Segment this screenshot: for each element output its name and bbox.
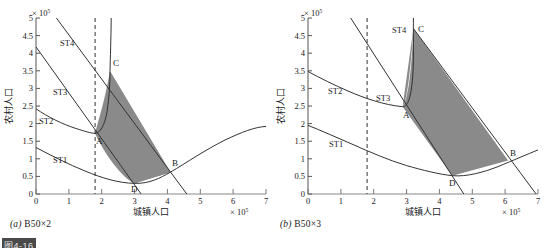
plot-area-b: × 105 0 0.5 1 1.5 2 <box>272 0 544 216</box>
label-st3-b: ST3 <box>376 93 390 103</box>
y-tick-label: 4 <box>29 48 34 58</box>
shaded-region-a-fill <box>95 71 170 183</box>
y-axis-ticks-a <box>36 18 40 194</box>
y-axis-exponent-sup-a: 5 <box>47 8 50 14</box>
y-axis-exponent-b: × 105 <box>304 8 322 18</box>
label-st1-a: ST1 <box>53 155 67 165</box>
shaded-region-b <box>403 29 509 176</box>
x-axis-ticks-b <box>308 189 538 194</box>
label-st4-a: ST4 <box>60 38 75 48</box>
y-tick-label: 0.5 <box>22 171 33 181</box>
y-tick-label: 1 <box>29 154 33 164</box>
chart-panel-a: × 105 0 0.5 1 1.5 <box>0 0 272 246</box>
point-label-c-a: C <box>113 58 119 68</box>
panel-caption-b: (b) B50×3 <box>280 219 321 229</box>
y-axis-tick-labels-b: 0 0.5 1 1.5 2 2.5 3 3.5 4 4.5 5 <box>294 13 305 199</box>
y-axis-tick-labels-a: 0 0.5 1 1.5 2 2.5 3 3.5 4 4.5 5 <box>22 13 33 199</box>
y-tick-label: 3 <box>29 83 33 93</box>
x-tick-label: 3 <box>132 196 136 206</box>
x-tick-label: 0 <box>306 196 310 206</box>
point-label-a-b: A <box>403 110 410 120</box>
y-axis-exponent-sup-b: 5 <box>319 8 322 14</box>
x-tick-label: 1 <box>67 196 71 206</box>
label-st2-b: ST2 <box>328 86 342 96</box>
plot-area-a: × 105 0 0.5 1 1.5 <box>0 0 272 216</box>
panel-caption-index-b: (b) <box>280 219 292 229</box>
panel-caption-index-a: (a) <box>10 219 22 229</box>
y-tick-label: 0 <box>29 189 33 199</box>
x-tick-label: 0 <box>34 196 38 206</box>
y-axis-exponent-a: × 105 <box>32 8 50 18</box>
chart-panel-b: × 105 0 0.5 1 1.5 2 <box>272 0 544 246</box>
y-tick-label: 4.5 <box>22 31 33 41</box>
x-tick-label: 3 <box>404 196 408 206</box>
x-tick-label: 7 <box>536 196 540 206</box>
panel-caption-text-b: B50×3 <box>294 219 321 229</box>
point-label-d-b: D <box>449 178 456 188</box>
y-tick-label: 5 <box>301 13 305 23</box>
y-tick-label: 4.5 <box>294 31 305 41</box>
y-tick-label: 2 <box>29 119 33 129</box>
x-axis-ticks-a <box>36 189 266 194</box>
y-tick-label: 3 <box>301 83 305 93</box>
label-st2-a: ST2 <box>39 116 53 126</box>
x-axis-tick-labels-b: 0 1 2 3 4 5 6 7 <box>306 196 540 206</box>
point-label-b-b: B <box>510 148 516 158</box>
y-tick-label: 0.5 <box>294 171 305 181</box>
x-tick-label: 4 <box>437 196 442 206</box>
point-label-d-a: D <box>131 184 138 194</box>
x-axis-title-a: 城镇人口 <box>133 206 169 216</box>
y-tick-label: 1.5 <box>294 136 305 146</box>
x-tick-label: 4 <box>165 196 170 206</box>
y-tick-label: 2.5 <box>294 101 305 111</box>
y-tick-label: 5 <box>29 13 33 23</box>
x-tick-label: 6 <box>503 196 507 206</box>
point-label-a-a: A <box>96 136 103 146</box>
y-axis-ticks-b <box>308 18 312 194</box>
x-axis-exponent-b: × 105 <box>502 207 520 216</box>
label-st4-b: ST4 <box>392 25 407 35</box>
x-tick-label: 2 <box>100 196 104 206</box>
point-label-b-a: B <box>172 158 178 168</box>
point-label-c-b: C <box>418 24 424 34</box>
x-tick-label: 2 <box>372 196 376 206</box>
y-axis-title-a: 农村人口 <box>3 88 14 124</box>
y-tick-label: 0 <box>301 189 305 199</box>
x-axis-exponent-sup-a: 5 <box>245 207 248 213</box>
y-tick-label: 2.5 <box>22 101 33 111</box>
y-tick-label: 1.5 <box>22 136 33 146</box>
y-axis-title-b: 农村人口 <box>275 88 286 124</box>
y-tick-label: 1 <box>301 154 305 164</box>
y-tick-label: 2 <box>301 119 305 129</box>
x-axis-exponent-sup-b: 5 <box>517 207 520 213</box>
x-axis-title-b: 城镇人口 <box>405 206 441 216</box>
label-st1-b: ST1 <box>329 139 343 149</box>
panel-caption-a: (a) B50×2 <box>10 219 51 229</box>
x-tick-label: 6 <box>231 196 235 206</box>
y-tick-label: 3.5 <box>294 66 305 76</box>
x-axis-tick-labels-a: 0 1 2 3 4 5 6 7 <box>34 196 268 206</box>
x-tick-label: 5 <box>470 196 474 206</box>
label-st3-a: ST3 <box>53 87 67 97</box>
x-tick-label: 5 <box>198 196 202 206</box>
x-axis-exponent-a: × 105 <box>230 207 248 216</box>
panel-caption-text-a: B50×2 <box>24 219 51 229</box>
x-tick-label: 1 <box>339 196 343 206</box>
x-tick-label: 7 <box>264 196 268 206</box>
y-tick-label: 4 <box>301 48 306 58</box>
figure-number-label: 图4-16 <box>2 238 36 248</box>
y-tick-label: 3.5 <box>22 66 33 76</box>
